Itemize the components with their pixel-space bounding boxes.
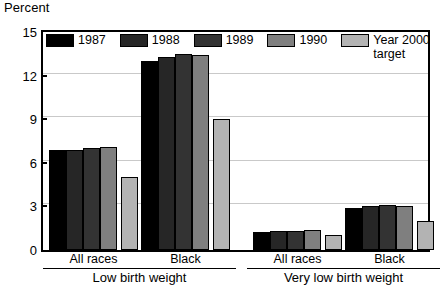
legend-label: 1987 <box>78 33 106 47</box>
section-rule-1 <box>247 268 440 269</box>
chart-legend: 1987198819891990Year 2000 target <box>46 33 430 61</box>
y-tick-label-6: 6 <box>3 156 37 169</box>
category-label-1: Black <box>136 252 236 267</box>
category-axis-labels: All racesBlackAll racesBlackLow birth we… <box>41 252 430 300</box>
category-label-2: All races <box>248 252 348 267</box>
gridline-6 <box>43 160 428 161</box>
gridline-12 <box>43 73 428 74</box>
y-tick-label-3: 3 <box>3 200 37 213</box>
legend-label: 1990 <box>299 33 327 47</box>
legend-item-1989[interactable]: 1989 <box>194 33 254 47</box>
section-rule-0 <box>43 268 236 269</box>
legend-item-year-2000[interactable]: Year 2000 target <box>341 33 430 61</box>
legend-swatch-icon <box>267 34 295 47</box>
y-tick-mark-6 <box>41 162 47 164</box>
legend-item-1987[interactable]: 1987 <box>46 33 106 47</box>
gridline-3 <box>43 203 428 204</box>
legend-label: Year 2000 target <box>373 33 430 61</box>
category-label-0: All races <box>44 252 144 267</box>
y-tick-label-15: 15 <box>3 26 37 39</box>
section-label-1: Very low birth weight <box>207 270 444 286</box>
y-tick-label-12: 12 <box>3 69 37 82</box>
legend-item-1988[interactable]: 1988 <box>120 33 180 47</box>
legend-swatch-icon <box>194 34 222 47</box>
y-tick-label-0: 0 <box>3 244 37 257</box>
gridline-9 <box>43 116 428 117</box>
y-tick-mark-3 <box>41 205 47 207</box>
legend-label: 1988 <box>152 33 180 47</box>
y-axis-title: Percent <box>4 1 50 15</box>
legend-label: 1989 <box>226 33 254 47</box>
plot-area <box>41 30 430 252</box>
y-tick-mark-12 <box>41 75 47 77</box>
legend-item-1990[interactable]: 1990 <box>267 33 327 47</box>
legend-swatch-icon <box>120 34 148 47</box>
legend-swatch-icon <box>341 34 369 47</box>
y-tick-mark-9 <box>41 118 47 120</box>
y-axis-tick-labels: 03691215 <box>0 30 37 252</box>
y-tick-label-9: 9 <box>3 113 37 126</box>
legend-swatch-icon <box>46 34 74 47</box>
category-label-3: Black <box>340 252 440 267</box>
